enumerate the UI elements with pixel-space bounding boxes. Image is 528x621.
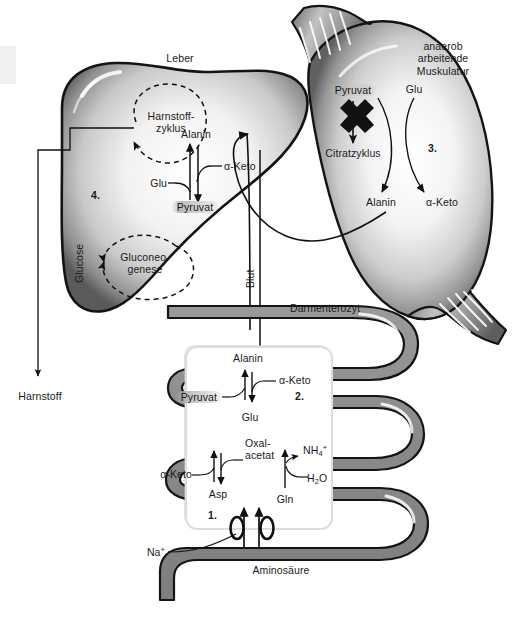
diagram-artwork (0, 0, 528, 621)
liver-alpha-keto-label: α-Keto (224, 160, 256, 172)
entero-step-1-number: 1. (208, 509, 217, 521)
sodium-na: Na (147, 546, 161, 558)
muscle-title: anaerob arbeitende Muskulatur (401, 40, 486, 77)
oxalacetat-label: Oxal- acetat (245, 437, 274, 462)
harnstoff-output-label: Harnstoff (18, 390, 61, 402)
darmenterozyt-title: Darmenterozyt (290, 302, 360, 314)
entero-step-2-number: 2. (295, 390, 304, 402)
liver-pyruvat-label: Pyruvat (172, 201, 218, 213)
water-label: H2O (307, 472, 327, 487)
liver-title: Leber (166, 52, 193, 64)
diagram-canvas: Leber Harnstoff- zyklus 4. Gluconeo- gen… (0, 0, 528, 621)
ammonium-label: NH4+ (303, 444, 327, 459)
muscle-pyruvat-label: Pyruvat (330, 84, 376, 96)
asp-label: Asp (209, 488, 227, 500)
muscle-step-number: 3. (428, 142, 437, 154)
aminosaeure-label: Aminosäure (252, 564, 309, 576)
entero-alpha-keto-upper-label: α-Keto (279, 374, 311, 386)
sodium-sup: + (161, 545, 165, 554)
entero-alanin-label: Alanin (233, 352, 263, 364)
liver-alanin-label: Alanin (181, 128, 211, 140)
ammonium-nh: NH (303, 444, 318, 456)
gln-label: Gln (277, 493, 294, 505)
entero-pyruvat-label: Pyruvat (176, 391, 222, 403)
ammonium-sup: + (323, 443, 327, 452)
water-o: O (319, 472, 327, 484)
gluconeogenesis-label: Gluconeo- genese (120, 251, 169, 276)
glucose-label: Glucose (73, 244, 85, 283)
muscle-alpha-keto-label: α-Keto (426, 196, 458, 208)
liver-glu-label: Glu (150, 177, 167, 189)
citratzyklus-label: Citratzyklus (325, 147, 380, 159)
liver-organ-shape (62, 63, 308, 312)
water-h: H (307, 472, 315, 484)
entero-glu-label: Glu (242, 411, 259, 423)
muscle-glu-label: Glu (406, 83, 423, 95)
sodium-label: Na+ (147, 546, 165, 558)
entero-alpha-keto-lower-label: α-Keto (160, 468, 192, 480)
muscle-alanin-label: Alanin (366, 196, 396, 208)
liver-step-number: 4. (91, 189, 100, 201)
blut-label: Blut (244, 270, 256, 289)
